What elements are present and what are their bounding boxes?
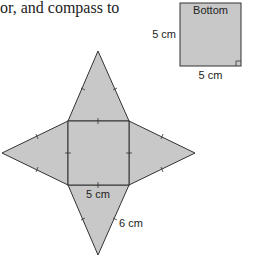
left-triangle bbox=[2, 121, 68, 185]
pyramid-net-figure: Bottom 5 cm 5 cm 5 cm 6 cm bbox=[0, 0, 254, 258]
right-triangle bbox=[129, 121, 195, 185]
bottom-base-label: 5 cm bbox=[199, 69, 223, 81]
pyramid-net bbox=[2, 51, 195, 255]
net-slant-label: 6 cm bbox=[119, 217, 143, 229]
bottom-side-label: 5 cm bbox=[152, 28, 176, 40]
net-base-label: 5 cm bbox=[86, 188, 110, 200]
bottom-title: Bottom bbox=[193, 4, 228, 16]
top-triangle bbox=[68, 51, 129, 121]
bottom-view: Bottom 5 cm 5 cm bbox=[152, 3, 241, 81]
base-square bbox=[68, 121, 129, 185]
